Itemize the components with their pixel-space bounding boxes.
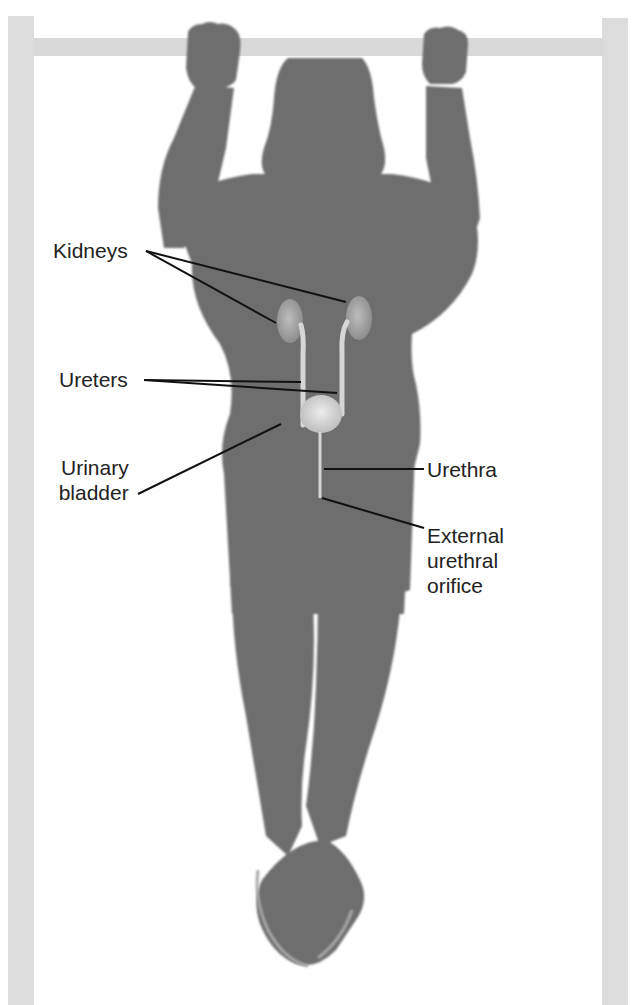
left-kidney [277,299,303,343]
right-post [602,18,628,1005]
crossbar [34,38,604,56]
label-urethra: Urethra [427,457,497,482]
label-orifice-line2: urethral [427,548,504,573]
label-external-urethral-orifice: External urethral orifice [427,523,504,598]
label-kidneys: Kidneys [53,238,128,263]
right-kidney [346,296,372,340]
label-orifice-line1: External [427,523,504,548]
label-urinary-line1: Urinary [57,455,129,480]
urinary-bladder [300,395,342,433]
left-post [8,16,34,1005]
label-ureters: Ureters [59,367,128,392]
label-orifice-line3: orifice [427,573,504,598]
label-urinary-line2: bladder [57,480,129,505]
anatomy-diagram: Kidneys Ureters Urinary bladder Urethra … [0,0,640,1005]
label-urinary-bladder: Urinary bladder [57,455,129,505]
